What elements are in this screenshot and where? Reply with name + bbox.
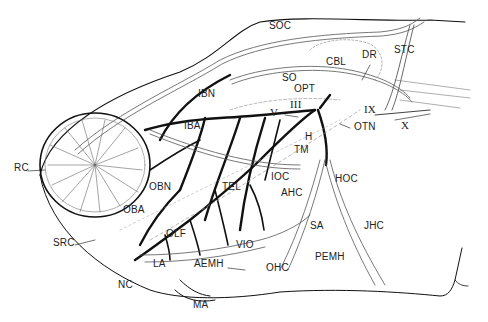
label-la: LA <box>153 259 166 269</box>
head-outline <box>40 19 465 175</box>
label-rc: RC <box>14 163 29 173</box>
label-soc: SOC <box>269 21 291 31</box>
label-nc: NC <box>118 280 133 290</box>
trunk-main <box>145 110 315 130</box>
label-tel: TEL <box>222 182 241 192</box>
label-v: V <box>270 107 278 118</box>
label-obn: OBN <box>149 182 171 192</box>
label-iba: IBA <box>184 121 201 131</box>
brain-outline <box>230 66 410 98</box>
label-otn: OTN <box>354 122 376 132</box>
label-jhc: JHC <box>364 221 384 231</box>
label-ioc: IOC <box>271 172 289 182</box>
label-ix: IX <box>364 104 376 115</box>
label-tm: TM <box>294 145 309 155</box>
label-vio: VIO <box>236 240 254 250</box>
label-olf: OLF <box>166 229 186 239</box>
label-ibn: IBN <box>198 89 215 99</box>
label-oba: OBA <box>123 205 145 215</box>
label-iii: III <box>290 99 302 110</box>
label-stc: STC <box>394 45 415 55</box>
label-so: SO <box>282 73 297 83</box>
label-src: SRC <box>53 238 75 248</box>
label-hoc: HOC <box>335 174 358 184</box>
label-ma: MA <box>193 300 208 310</box>
lower-outline <box>40 175 462 298</box>
label-pemh: PEMH <box>315 252 345 262</box>
anatomical-diagram <box>0 0 488 322</box>
label-aemh: AEMH <box>194 259 224 269</box>
label-x: X <box>401 120 409 131</box>
label-ohc: OHC <box>266 263 289 273</box>
label-cbl: CBL <box>326 57 346 67</box>
label-h: H <box>305 132 312 142</box>
label-dr: DR <box>362 50 377 60</box>
label-opt: OPT <box>294 84 315 94</box>
label-sa: SA <box>310 221 324 231</box>
label-ahc: AHC <box>281 188 303 198</box>
